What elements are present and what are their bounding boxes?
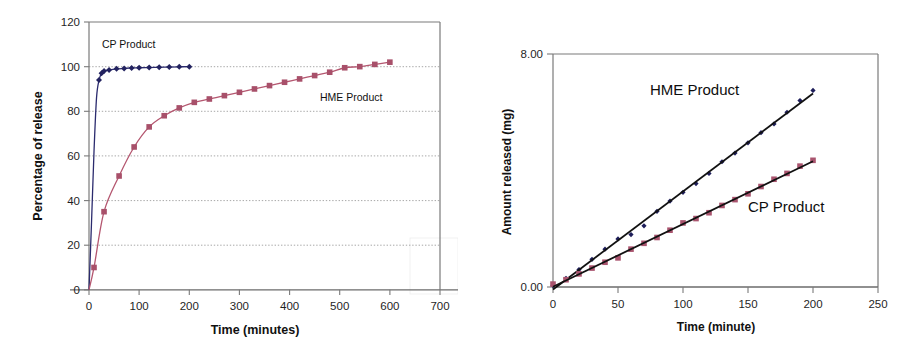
right-xtick-250: 250	[868, 298, 887, 310]
right-xtick-200: 200	[803, 298, 822, 310]
data-point-marker	[372, 62, 378, 68]
left-xtick-200: 200	[180, 300, 199, 312]
data-point-marker	[106, 67, 112, 73]
left-xtick-300: 300	[230, 300, 249, 312]
left-ytick-40: 40	[67, 195, 80, 207]
right-xtick-0: 0	[550, 298, 556, 310]
right-chart-svg: 8.00 0.00 0 50 100 150 200 250 Amount re…	[458, 0, 916, 359]
left-xtick-600: 600	[380, 300, 399, 312]
left-x-axis-title: Time (minutes)	[211, 323, 300, 337]
data-point-marker	[176, 64, 182, 70]
data-point-marker	[207, 96, 213, 102]
right-x-ticks	[553, 287, 878, 293]
right-series-hme	[550, 88, 815, 290]
data-point-marker	[342, 65, 348, 71]
data-point-marker	[192, 100, 198, 106]
data-point-marker	[146, 65, 152, 71]
right-annotation-hme-product: HME Product	[650, 81, 740, 98]
data-point-marker	[101, 209, 107, 215]
right-xtick-50: 50	[612, 298, 625, 310]
left-y-axis-title: Percentage of release	[31, 91, 45, 220]
data-point-marker	[156, 64, 162, 70]
chart-panel-right: 8.00 0.00 0 50 100 150 200 250 Amount re…	[458, 0, 916, 359]
left-series-cp	[89, 64, 192, 290]
left-gridlines	[89, 67, 440, 246]
right-annotation-cp-product: CP Product	[748, 198, 825, 215]
right-y-ticks	[547, 54, 553, 287]
left-xtick-400: 400	[280, 300, 299, 312]
data-point-marker	[357, 64, 363, 70]
data-point-marker	[176, 105, 182, 111]
data-point-marker	[166, 64, 172, 70]
data-point-marker	[297, 76, 303, 82]
data-point-marker	[186, 64, 192, 70]
right-xtick-150: 150	[738, 298, 757, 310]
left-annotation-cp-product: CP Product	[102, 38, 156, 50]
data-point-marker	[96, 77, 102, 83]
data-point-marker	[641, 223, 646, 228]
right-ytick-0: 0.00	[521, 281, 543, 293]
left-xtick-500: 500	[330, 300, 349, 312]
right-ytick-8: 8.00	[521, 48, 543, 60]
figure-root: 120 100 80 60 40 20 0 0 100 200 300	[0, 0, 916, 359]
data-point-marker	[810, 88, 815, 93]
data-point-marker	[387, 59, 393, 65]
left-xtick-0: 0	[86, 300, 92, 312]
left-xtick-700: 700	[430, 300, 449, 312]
left-ytick-0: 0	[74, 284, 80, 296]
left-ytick-80: 80	[67, 105, 80, 117]
left-ytick-20: 20	[67, 239, 80, 251]
left-y-ticks	[84, 22, 89, 290]
data-point-marker	[312, 73, 318, 79]
data-point-marker	[131, 144, 137, 150]
data-point-marker	[282, 79, 288, 85]
chart-panel-left: 120 100 80 60 40 20 0 0 100 200 300	[0, 0, 458, 359]
right-y-axis-title: Amount released (mg)	[500, 109, 514, 236]
data-point-marker	[116, 173, 122, 179]
data-point-marker	[146, 124, 152, 130]
data-point-marker	[161, 113, 167, 119]
left-chart-svg: 120 100 80 60 40 20 0 0 100 200 300	[0, 0, 458, 359]
data-point-marker	[327, 69, 333, 75]
data-point-marker	[252, 86, 258, 92]
left-annotation-hme-product: HME Product	[320, 91, 383, 103]
data-point-marker	[237, 90, 243, 96]
right-series-cp	[550, 158, 816, 287]
left-ytick-60: 60	[67, 150, 80, 162]
right-xtick-100: 100	[673, 298, 692, 310]
left-xtick-100: 100	[130, 300, 149, 312]
right-x-axis-title: Time (minute)	[677, 320, 755, 334]
data-point-marker	[267, 83, 273, 89]
scan-artifact	[410, 238, 458, 294]
left-ytick-100: 100	[61, 61, 80, 73]
data-point-marker	[136, 65, 142, 71]
data-point-marker	[222, 93, 228, 99]
data-point-marker	[129, 65, 135, 71]
left-ytick-120: 120	[61, 16, 80, 28]
left-x-ticks	[89, 290, 440, 295]
data-point-marker	[91, 265, 97, 271]
